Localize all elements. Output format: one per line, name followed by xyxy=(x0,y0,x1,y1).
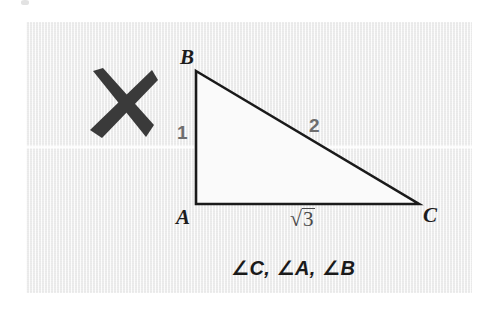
triangle-shape xyxy=(196,71,419,204)
answer-text: ∠C, ∠A, ∠B xyxy=(231,258,355,278)
radical-sign-icon: √ xyxy=(290,206,302,231)
radical-expression: √3 xyxy=(288,208,315,230)
vertex-label-b: B xyxy=(180,47,194,68)
side-label-bc: 2 xyxy=(309,116,320,135)
radicand-value: 3 xyxy=(302,208,315,230)
side-label-ac: √3 xyxy=(288,208,315,230)
side-label-ab: 1 xyxy=(177,123,188,142)
vertex-label-a: A xyxy=(176,207,190,228)
vertex-label-c: C xyxy=(423,205,437,226)
figure-root: B A C 1 2 √3 ∠C, ∠A, ∠B xyxy=(0,0,488,311)
